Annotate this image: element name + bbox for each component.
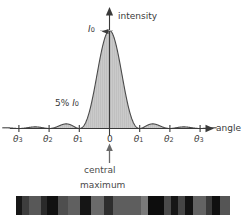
- diffraction-figure: intensity angle I0 5% I0 θ3θ2θ10θ1θ2θ3 c…: [0, 0, 246, 215]
- fringe-band-1: [22, 196, 29, 215]
- x-tick-label-4: θ1: [134, 135, 144, 144]
- tick-subscript: 2: [49, 136, 53, 144]
- sidelobe-subscript: 0: [75, 100, 79, 108]
- x-tick-label-3: 0: [107, 135, 113, 144]
- fringe-band-7: [80, 196, 91, 215]
- tick-subscript: 1: [79, 136, 83, 144]
- caption-line-2: maximum: [80, 181, 125, 190]
- sidelobe-annotation: 5% I0: [55, 99, 79, 108]
- tick-subscript: 3: [200, 136, 204, 144]
- peak-intensity-subscript: 0: [91, 26, 95, 34]
- fringe-band-17: [193, 196, 206, 215]
- tick-subscript: 1: [139, 136, 143, 144]
- fringe-band-19: [212, 196, 220, 215]
- tick-subscript: 3: [18, 136, 22, 144]
- fringe-band-14: [171, 196, 178, 215]
- caption-line-1: central: [84, 166, 115, 175]
- fringe-band-6: [68, 196, 80, 215]
- fringe-band-4: [47, 196, 58, 215]
- x-tick-label-1: θ2: [43, 135, 53, 144]
- fringe-band-5: [58, 196, 68, 215]
- sidelobe-percent: 5%: [55, 98, 69, 108]
- fringe-band-12: [148, 196, 164, 215]
- peak-level-arrowhead: [102, 29, 109, 34]
- fringe-band-13: [164, 196, 171, 215]
- fringe-band-15: [178, 196, 185, 215]
- x-tick-label-2: θ1: [73, 135, 83, 144]
- central-maximum-pointer: [106, 144, 113, 164]
- fringe-band-2: [29, 196, 41, 215]
- x-tick-label-6: θ3: [194, 135, 204, 144]
- diffraction-pattern-strip: [16, 196, 230, 215]
- peak-intensity-label: I0: [88, 25, 95, 34]
- fringe-band-8: [91, 196, 104, 215]
- tick-subscript: 2: [169, 136, 173, 144]
- x-tick-label-0: θ3: [13, 135, 23, 144]
- fringe-band-16: [185, 196, 193, 215]
- x-axis-label: angle: [216, 124, 241, 133]
- fringe-band-11: [141, 196, 148, 215]
- fringe-band-20: [220, 196, 230, 215]
- fringe-band-9: [104, 196, 113, 215]
- fringe-band-10: [113, 196, 141, 215]
- y-axis-label: intensity: [118, 12, 157, 21]
- x-tick-label-5: θ2: [164, 135, 174, 144]
